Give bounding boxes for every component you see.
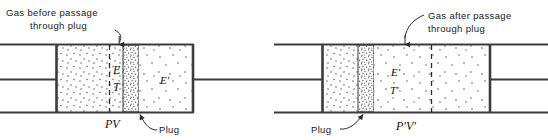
- callout-after-line1: Gas after passage: [428, 10, 512, 21]
- plug-leader-right: [340, 115, 363, 130]
- porous-plug-right: [358, 45, 374, 112]
- callout-leader-before: [115, 30, 121, 42]
- panel-after: Gas after passage through plug E' T' P'V…: [274, 10, 548, 135]
- panel-before: Gas before passage through plug E T E' P…: [0, 7, 274, 135]
- gas-region-upstream: [57, 45, 109, 112]
- porous-plug-left: [123, 45, 139, 112]
- callout-before-line1: Gas before passage: [6, 7, 98, 18]
- label-plug-right: Plug: [311, 124, 331, 135]
- callout-before-line2: through plug: [30, 20, 87, 31]
- label-work-PV: PV: [104, 117, 121, 131]
- gas-region-upstream-right: [323, 45, 358, 112]
- plug-leader-left: [140, 115, 157, 131]
- callout-after-line2: through plug: [428, 23, 485, 34]
- label-plug-left: Plug: [159, 124, 179, 135]
- label-energy-E: E: [112, 63, 121, 77]
- label-downstream-energy-Eprime: E': [159, 74, 170, 86]
- gas-region-upstream-inner: [109, 45, 123, 112]
- callout-leader-after: [405, 15, 424, 38]
- joule-thomson-figure: Gas before passage through plug E T E' P…: [0, 0, 548, 140]
- label-energy-Eprime: E': [390, 66, 401, 78]
- label-temperature-Tprime: T': [390, 84, 399, 96]
- label-work-PprimeVprime: P'V': [395, 119, 416, 133]
- figure-canvas: Gas before passage through plug E T E' P…: [0, 0, 548, 140]
